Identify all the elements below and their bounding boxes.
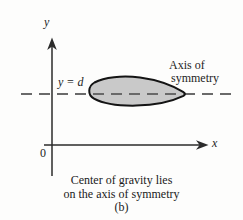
axis-of-symmetry-label-line1: Axis of [169, 58, 205, 72]
axis-of-symmetry-label-line2: symmetry [169, 72, 219, 85]
subfigure-label: (b) [0, 200, 243, 215]
level-line-label: y = d [58, 76, 83, 89]
figure-caption-line1: Center of gravity lies [0, 173, 243, 187]
origin-label: 0 [40, 147, 46, 160]
figure-container: y x 0 y = d Axis of symmetry Center of g… [0, 0, 243, 220]
figure-caption: Center of gravity lies on the axis of sy… [0, 173, 243, 201]
axis-of-symmetry-label: Axis of symmetry [169, 59, 219, 86]
y-axis-label: y [44, 16, 49, 29]
x-axis-label: x [212, 137, 217, 150]
